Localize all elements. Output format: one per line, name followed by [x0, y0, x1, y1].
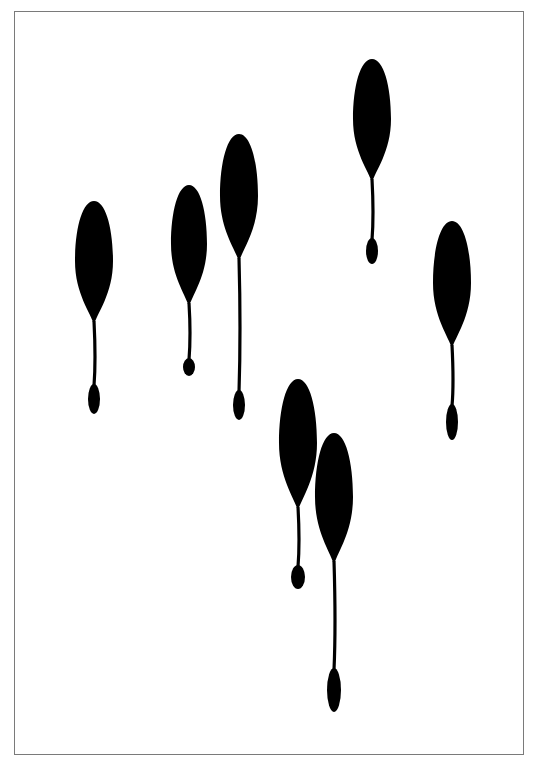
ink-drops-artwork	[0, 0, 533, 764]
ink-drop-2	[171, 185, 207, 376]
ink-drop-7	[315, 433, 353, 712]
ink-drop-1	[75, 201, 113, 414]
ink-drop-5	[433, 221, 471, 440]
ink-drop-3	[220, 134, 258, 420]
ink-drop-6	[279, 379, 317, 589]
ink-drop-4	[353, 59, 391, 264]
